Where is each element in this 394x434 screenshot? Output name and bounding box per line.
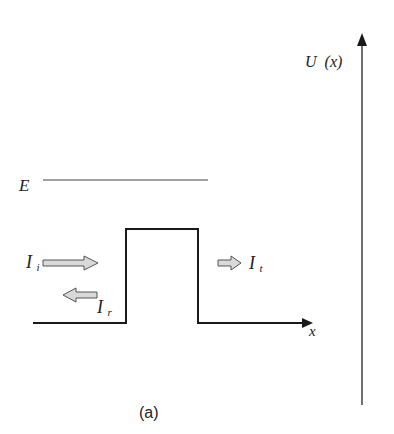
energy-label: E [18, 176, 30, 195]
u-axis-label-arg: (x) [325, 53, 343, 71]
figure-caption: (a) [139, 404, 159, 421]
potential-profile: x [33, 229, 316, 339]
u-axis-label-main: U [305, 53, 318, 70]
energy-level: E [18, 176, 208, 195]
u-axis-arrowhead-icon [357, 33, 367, 46]
potential-barrier-diagram: E x U (x) I i I r I t [0, 0, 394, 434]
x-axis-label: x [308, 323, 316, 339]
right-arrow-icon [43, 256, 98, 270]
u-axis-label: U (x) [305, 53, 342, 71]
transmitted-current-label: I t [248, 253, 264, 274]
barrier-outline [33, 229, 305, 323]
incident-current-label: I i [25, 252, 40, 273]
u-axis: U (x) [305, 33, 367, 405]
left-arrow-icon [63, 288, 97, 302]
right-arrow-icon [218, 256, 241, 270]
reflected-current-label: I r [96, 297, 113, 318]
transmitted-current: I t [218, 253, 264, 274]
reflected-current: I r [63, 288, 113, 318]
incident-current: I i [25, 252, 98, 273]
